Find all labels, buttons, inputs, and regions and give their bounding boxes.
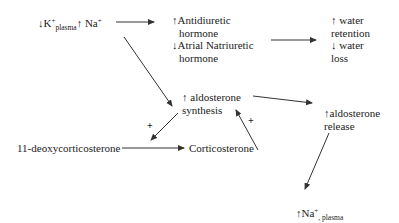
sodium-plasma-label: Na: [302, 207, 315, 219]
aldo-synthesis-line2: synthesis: [182, 104, 222, 116]
corticosterone-node: Corticosterone: [189, 142, 254, 155]
corticosterone-label: Corticosterone: [189, 142, 254, 154]
sodium-plasma-node: ↑Na+, plasma: [296, 205, 343, 223]
aldosterone-synthesis-node: ↑ aldosterone synthesis: [182, 91, 241, 116]
anh-line2: hormone: [179, 52, 218, 64]
arrow-aldo-synthesis-to-release: [253, 96, 312, 103]
adh-line2: hormone: [179, 27, 218, 39]
sodium-label: Na: [82, 17, 98, 29]
anh-line1: Atrial Natriuretic: [178, 39, 254, 51]
water-loss-line1: water: [337, 39, 364, 51]
stimulus-node: ↓K+plasma↑ Na+: [38, 15, 102, 35]
arrow-release-to-na-plasma: [305, 133, 329, 189]
aldo-release-line1: aldosterone: [330, 107, 381, 119]
deoxycorticosterone-node: 11-deoxycorticosterone: [17, 142, 120, 155]
deoxycorticosterone-label: 11-deoxycorticosterone: [17, 142, 120, 154]
plus-sign-right: +: [248, 115, 254, 126]
plus-sign-left: +: [147, 120, 153, 131]
sodium-plasma-subscript: , plasma: [318, 213, 343, 222]
aldosterone-release-node: ↑aldosterone release: [324, 107, 380, 132]
arrow-stimulus-to-aldo-synthesis: [124, 37, 172, 106]
water-retention-line2: retention: [331, 27, 370, 39]
water-loss-line2: loss: [331, 52, 348, 64]
water-node: ↑ water retention ↓ water loss: [331, 14, 370, 64]
aldo-synthesis-line1: aldosterone: [188, 91, 241, 103]
hormones-node: ↑Antidiuretic hormone ↓Atrial Natriureti…: [172, 14, 254, 64]
water-retention-line1: water: [337, 14, 364, 26]
potassium-subscript: plasma: [55, 23, 76, 32]
adh-line1: Antidiuretic: [178, 14, 231, 26]
arrow-aldo-synthesis-to-deoxy: [151, 113, 178, 140]
sodium-charge: +: [98, 17, 102, 25]
aldo-release-line2: release: [324, 120, 355, 132]
